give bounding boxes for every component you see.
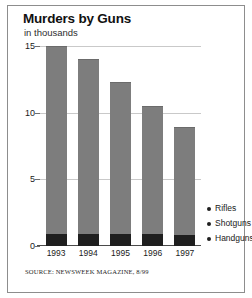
bar-segment-long-guns [78,59,99,234]
y-axis-tick [35,179,40,180]
y-axis-tick [35,46,40,47]
legend-item-handguns: Handguns [207,232,251,245]
bar-segment-long-guns [46,46,67,234]
chart-figure: Murders by Guns in thousands 051015 1993… [0,0,252,298]
bar-segment-handguns [46,234,67,246]
bar-1995 [110,82,131,246]
x-axis-label-1997: 1997 [168,248,202,258]
x-axis-label-1995: 1995 [104,248,138,258]
bar-1996 [142,106,163,246]
chart-legend: RiflesShotgunsHandguns [207,202,251,247]
legend-label: Shotguns [215,219,251,228]
y-axis-tick-label: 10 [25,109,35,118]
chart-subtitle: in thousands [24,27,78,38]
legend-label: Handguns [215,234,252,243]
legend-bullet-icon [207,222,211,226]
legend-item-shotguns: Shotguns [207,217,251,230]
bar-segment-long-guns [142,106,163,234]
bar-segment-long-guns [110,82,131,234]
x-axis-label-1994: 1994 [71,248,105,258]
legend-bullet-icon [207,237,211,241]
legend-item-rifles: Rifles [207,202,251,215]
bar-segment-handguns [142,234,163,246]
plot-area [40,46,201,246]
y-axis-tick-label: 15 [25,42,35,51]
bar-segment-long-guns [174,127,195,235]
x-axis-label-1996: 1996 [136,248,170,258]
bar-1997 [174,127,195,246]
legend-bullet-icon [207,207,211,211]
bar-1993 [46,46,67,246]
legend-label: Rifles [215,204,236,213]
y-axis-tick [35,113,40,114]
x-axis-labels: 19931994199519961997 [40,248,201,262]
x-axis-label-1993: 1993 [39,248,73,258]
bar-1994 [78,59,99,246]
y-axis-labels: 051015 [16,46,35,246]
chart-source-note: SOURCE: NEWSWEEK MAGAZINE, 8/99 [25,268,149,275]
bar-segment-handguns [110,234,131,246]
chart-title: Murders by Guns [23,11,131,26]
bar-segment-handguns [78,234,99,246]
y-axis-tick [35,246,40,247]
bar-segment-handguns [174,235,195,246]
